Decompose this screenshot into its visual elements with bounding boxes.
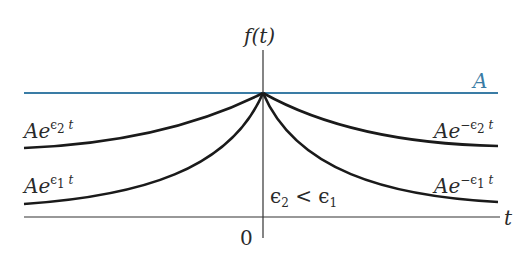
label-exponent: −ϵ1 t: [460, 173, 493, 187]
label-base: Ae: [434, 119, 460, 143]
label-exponent: ϵ2 t: [50, 118, 73, 132]
label-right-eps1: Ae−ϵ1 t: [434, 176, 493, 196]
label-right-eps2: Ae−ϵ2 t: [434, 121, 493, 141]
label-base: Ae: [434, 174, 460, 198]
label-left-eps1: Aeϵ1 t: [24, 176, 73, 196]
x-axis-label: t: [504, 208, 512, 228]
label-exponent: −ϵ2 t: [460, 118, 493, 132]
A-label: A: [473, 71, 487, 91]
origin-label: 0: [240, 228, 253, 248]
label-left-eps2: Aeϵ2 t: [24, 121, 73, 141]
label-exponent: ϵ1 t: [50, 173, 73, 187]
condition-label: ϵ2 < ϵ1: [270, 186, 337, 206]
label-base: Ae: [24, 174, 50, 198]
y-axis-label: f(t): [244, 26, 275, 46]
label-base: Ae: [24, 119, 50, 143]
